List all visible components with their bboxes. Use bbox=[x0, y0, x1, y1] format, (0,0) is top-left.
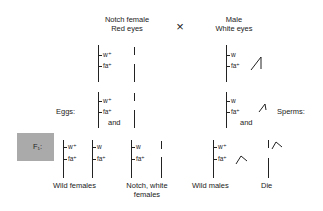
eggs-label: Eggs: bbox=[56, 107, 75, 116]
y-chromosome-icon bbox=[250, 56, 264, 71]
gene-fa-plus: fa⁺ bbox=[131, 155, 145, 162]
y-chromosome-icon bbox=[271, 141, 283, 150]
gene-w: w bbox=[226, 97, 236, 104]
label-line1: Notch, white bbox=[126, 181, 167, 190]
notch-deletion-chromosome-bottom bbox=[268, 158, 269, 178]
female-parent-title: Notch female Red eyes bbox=[105, 15, 149, 33]
sperms-and: and bbox=[240, 118, 253, 127]
gene-w-plus: w⁺ bbox=[63, 143, 77, 150]
male-parent-title: Male White eyes bbox=[215, 15, 252, 33]
notch-white-females-label: Notch, white females bbox=[126, 181, 167, 199]
y-chromosome-icon bbox=[235, 155, 248, 165]
notch-deletion-chromosome-top bbox=[161, 141, 162, 149]
gene-fa-plus: fa⁺ bbox=[98, 108, 112, 115]
gene-fa-plus: fa⁺ bbox=[63, 155, 77, 162]
notch-deletion-chromosome-bottom bbox=[134, 110, 135, 128]
notch-deletion-chromosome-top bbox=[268, 140, 269, 148]
male-parent-line1: Male bbox=[215, 15, 252, 24]
sperms-label: Sperms: bbox=[277, 107, 305, 116]
gene-fa-plus: fa⁺ bbox=[213, 155, 227, 162]
female-parent-line1: Notch female bbox=[105, 15, 149, 24]
notch-deletion-chromosome-bottom bbox=[161, 157, 162, 178]
gene-fa-plus: fa⁺ bbox=[226, 108, 240, 115]
gene-w-plus: w⁺ bbox=[98, 97, 112, 104]
cross-symbol: × bbox=[176, 20, 184, 34]
gene-fa-plus: fa⁺ bbox=[98, 62, 112, 69]
eggs-and: and bbox=[108, 118, 121, 127]
male-parent-line2: White eyes bbox=[215, 24, 252, 33]
f1-label: F₁: bbox=[33, 142, 42, 151]
gene-w-plus: w⁺ bbox=[213, 143, 227, 150]
die-label: Die bbox=[261, 181, 272, 190]
gene-w: w bbox=[92, 143, 102, 150]
gene-w: w bbox=[226, 51, 236, 58]
gene-fa-plus: fa⁺ bbox=[92, 155, 106, 162]
gene-w-plus: w⁺ bbox=[98, 51, 112, 58]
notch-deletion-chromosome-top bbox=[134, 93, 135, 101]
label-line2: females bbox=[126, 190, 167, 199]
female-parent-line2: Red eyes bbox=[105, 24, 149, 33]
notch-deletion-chromosome-bottom bbox=[134, 64, 135, 82]
notch-deletion-chromosome-top bbox=[134, 47, 135, 55]
gene-w: w bbox=[131, 143, 141, 150]
wild-females-label: Wild females bbox=[53, 181, 96, 190]
gene-fa-plus: fa⁺ bbox=[226, 62, 240, 69]
wild-males-label: Wild males bbox=[192, 181, 229, 190]
y-chromosome-icon bbox=[258, 103, 268, 113]
